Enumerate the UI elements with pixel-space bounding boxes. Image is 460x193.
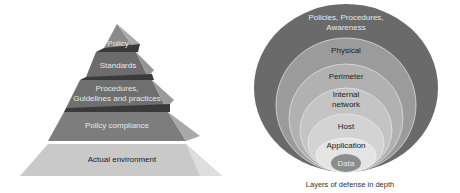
security-pyramid: Policy Standards Procedures, Guidelines … — [20, 24, 222, 176]
ring-label-application: Application — [326, 141, 365, 150]
diagram-caption: Layers of defense in depth — [290, 180, 410, 189]
pyramid-label-policy: Policy — [107, 39, 128, 48]
ring-label-physical: Physical — [331, 46, 361, 55]
ring-label-host: Host — [338, 122, 355, 131]
ring-label-policies-line1: Policies, Procedures, — [308, 13, 383, 22]
diagram-canvas: Policy Standards Procedures, Guidelines … — [0, 0, 460, 193]
pyramid-label-actual-environment: Actual environment — [88, 155, 157, 164]
ring-label-perimeter: Perimeter — [329, 72, 364, 81]
pyramid-label-procedures-line1: Procedures, — [95, 84, 138, 93]
ring-label-policies-line2: Awareness — [326, 23, 365, 32]
ring-label-internal-line1: Internal — [333, 90, 360, 99]
defense-in-depth-rings: Policies, Procedures, Awareness Physical… — [254, 4, 438, 172]
pyramid-label-standards: Standards — [100, 61, 136, 70]
ring-label-data: Data — [338, 159, 355, 168]
ring-label-internal-line2: network — [332, 100, 361, 109]
pyramid-label-policy-compliance: Policy compliance — [85, 121, 150, 130]
pyramid-label-procedures-line2: Guidelines and practices — [73, 94, 161, 103]
